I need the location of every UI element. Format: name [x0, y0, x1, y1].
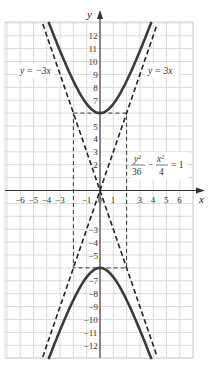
y-tick-label: −4 [88, 238, 98, 248]
y-tick-label: 4 [93, 134, 98, 144]
x-axis-label: x [198, 193, 204, 205]
x-tick-label: −4 [42, 195, 52, 205]
x-tick-label: 0 [98, 195, 103, 205]
eq-denominator-2: 4 [159, 167, 164, 177]
y-axis-label: y [86, 8, 92, 20]
hyperbola-chart: −6−5−4−3−10134561211109875432−3−4−5−7−8−… [0, 0, 211, 368]
y-tick-label: −9 [88, 302, 98, 312]
y-tick-label: 9 [93, 70, 98, 80]
x-tick-label: −1 [82, 195, 92, 205]
y-tick-label: 8 [93, 83, 98, 93]
y-tick-label: −11 [84, 328, 98, 338]
y-tick-label: −12 [84, 341, 98, 351]
y-tick-label: 5 [93, 122, 98, 132]
y-tick-label: 12 [88, 31, 97, 41]
x-tick-label: 6 [177, 195, 182, 205]
eq-rhs: = 1 [171, 160, 184, 170]
x-tick-label: −3 [55, 195, 65, 205]
x-tick-label: 1 [111, 195, 116, 205]
asymptote-pos-label: y = 3x [147, 66, 173, 76]
y-axis-arrow-icon [97, 10, 103, 19]
equation-label: y2 36 − x2 4 = 1 [130, 152, 188, 180]
eq-denominator-1: 36 [132, 167, 142, 177]
y-tick-label: 10 [88, 57, 98, 67]
y-tick-label: 7 [93, 96, 98, 106]
x-tick-label: 3 [137, 195, 142, 205]
x-tick-label: 4 [151, 195, 156, 205]
y-tick-label: −7 [88, 276, 98, 286]
y-tick-label: −8 [88, 289, 98, 299]
x-tick-label: −5 [29, 195, 39, 205]
x-tick-label: 5 [164, 195, 169, 205]
asymptote-neg-label: y = −3x [19, 66, 52, 76]
eq-minus: − [148, 160, 153, 170]
y-tick-label: 3 [93, 147, 98, 157]
axes [5, 10, 205, 358]
y-tick-label: 2 [93, 160, 98, 170]
x-tick-label: −6 [15, 195, 25, 205]
y-tick-label: −5 [88, 251, 98, 261]
y-tick-label: 11 [88, 44, 97, 54]
y-tick-label: −3 [88, 225, 98, 235]
y-tick-label: −10 [84, 315, 99, 325]
